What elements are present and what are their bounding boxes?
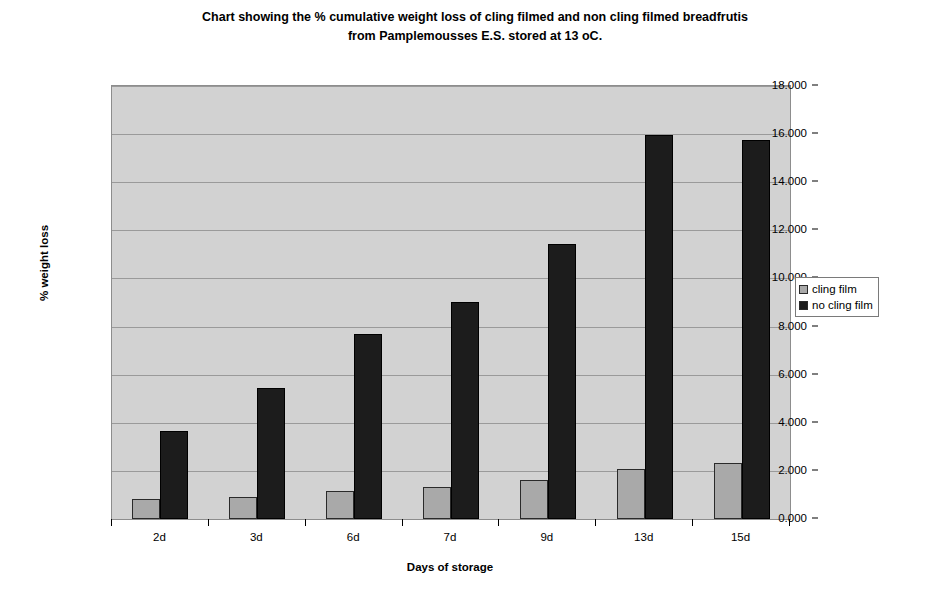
legend-swatch-icon <box>799 301 808 310</box>
plot-area <box>111 85 791 520</box>
x-tick-label: 3d <box>250 531 263 543</box>
gridline <box>112 182 790 183</box>
x-tick-mark <box>208 519 209 526</box>
y-tick-mark <box>812 421 818 422</box>
y-tick-label: 14.000 <box>772 175 807 187</box>
y-tick-mark <box>812 325 818 326</box>
y-axis-title: % weight loss <box>38 225 50 301</box>
x-tick-label: 15d <box>731 531 750 543</box>
legend-label: no cling film <box>812 299 873 311</box>
y-tick-mark <box>812 85 818 86</box>
x-tick-mark <box>789 519 790 526</box>
bar-2d-no-cling-film <box>160 431 188 519</box>
bar-7d-no-cling-film <box>451 302 479 519</box>
bar-3d-cling-film <box>229 497 257 519</box>
x-tick-mark <box>111 519 112 526</box>
x-tick-label: 9d <box>540 531 553 543</box>
bar-6d-no-cling-film <box>354 334 382 519</box>
x-tick-mark <box>402 519 403 526</box>
bar-13d-no-cling-film <box>645 135 673 519</box>
y-tick-mark <box>812 133 818 134</box>
legend-swatch-icon <box>799 285 808 294</box>
y-tick-label: 16.000 <box>772 127 807 139</box>
chart-legend: cling filmno cling film <box>795 277 879 317</box>
bar-7d-cling-film <box>423 487 451 519</box>
y-tick-label: 2.000 <box>778 464 807 476</box>
legend-item-no-cling-film: no cling film <box>799 297 873 313</box>
y-tick-label: 6.000 <box>778 368 807 380</box>
x-tick-mark <box>305 519 306 526</box>
gridline <box>112 278 790 279</box>
legend-item-cling-film: cling film <box>799 281 873 297</box>
x-tick-label: 2d <box>153 531 166 543</box>
x-tick-mark <box>595 519 596 526</box>
gridline <box>112 86 790 87</box>
x-axis-title: Days of storage <box>111 561 789 573</box>
y-tick-label: 0.000 <box>778 512 807 524</box>
gridline <box>112 230 790 231</box>
x-tick-label: 6d <box>347 531 360 543</box>
x-tick-mark <box>498 519 499 526</box>
y-tick-mark <box>812 229 818 230</box>
bar-6d-cling-film <box>326 491 354 519</box>
chart-title-line-2: from Pamplemousses E.S. stored at 13 oC. <box>95 27 855 46</box>
x-tick-label: 13d <box>634 531 653 543</box>
bar-15d-cling-film <box>714 463 742 519</box>
legend-label: cling film <box>812 283 857 295</box>
bar-2d-cling-film <box>132 499 160 519</box>
x-tick-mark <box>692 519 693 526</box>
y-tick-mark <box>812 518 818 519</box>
y-tick-label: 18.000 <box>772 79 807 91</box>
chart-title-line-1: Chart showing the % cumulative weight lo… <box>95 8 855 27</box>
y-tick-label: 4.000 <box>778 416 807 428</box>
y-tick-label: 8.000 <box>778 320 807 332</box>
chart-title: Chart showing the % cumulative weight lo… <box>95 8 855 46</box>
x-tick-label: 7d <box>444 531 457 543</box>
bar-9d-no-cling-film <box>548 244 576 519</box>
bar-15d-no-cling-film <box>742 140 770 519</box>
bar-9d-cling-film <box>520 480 548 519</box>
bar-13d-cling-film <box>617 469 645 519</box>
y-tick-label: 12.000 <box>772 223 807 235</box>
y-tick-mark <box>812 469 818 470</box>
y-tick-mark <box>812 373 818 374</box>
gridline <box>112 134 790 135</box>
bar-3d-no-cling-film <box>257 388 285 519</box>
y-tick-mark <box>812 181 818 182</box>
